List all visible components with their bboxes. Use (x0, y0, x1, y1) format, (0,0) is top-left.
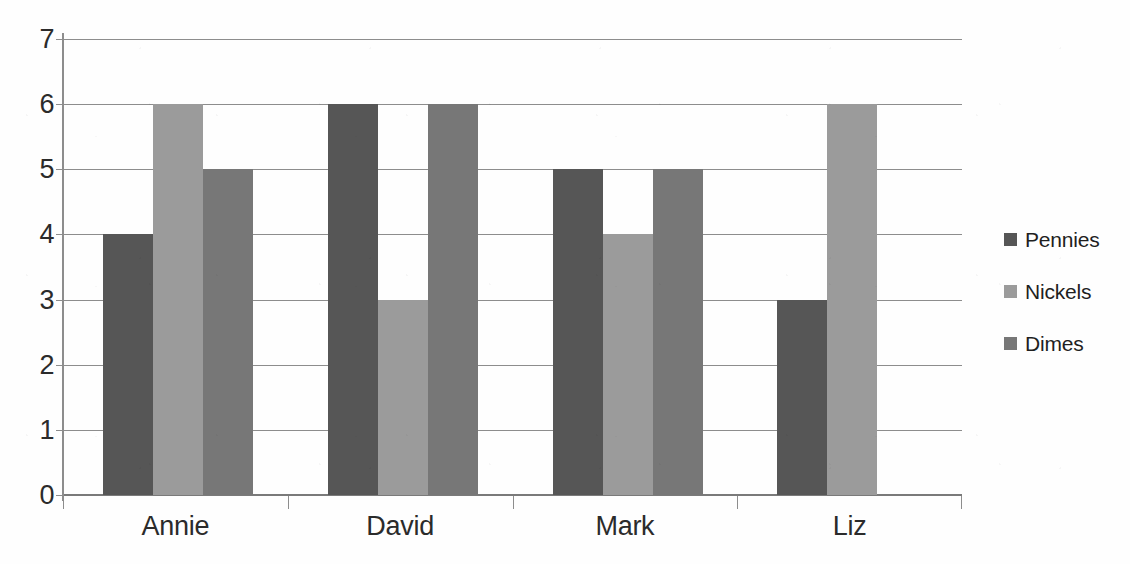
bar-annie-nickels (153, 104, 203, 495)
value-axis-tick-6 (56, 104, 64, 105)
bar-annie-pennies (103, 234, 153, 495)
category-tick-0 (63, 496, 64, 509)
y-tick-label-2: 2 (18, 351, 54, 378)
legend-item-dimes[interactable]: Dimes (1004, 330, 1084, 356)
bar-david-nickels (378, 300, 428, 495)
bar-mark-nickels (603, 234, 653, 495)
bar-group-liz (737, 39, 962, 495)
category-label-mark: Mark (513, 512, 738, 542)
category-tick-2 (513, 496, 514, 509)
bar-david-pennies (328, 104, 378, 495)
bar-mark-pennies (553, 169, 603, 495)
y-tick-label-6: 6 (18, 91, 54, 118)
bar-groups (63, 39, 962, 495)
category-tick-4 (961, 496, 962, 509)
bar-group-mark (513, 39, 738, 495)
value-axis-tick-0 (56, 495, 64, 496)
value-axis-tick-2 (56, 365, 64, 366)
bar-chart-figure: 76543210 AnnieDavidMarkLiz PenniesNickel… (0, 0, 1130, 564)
category-axis-ticks (63, 495, 962, 509)
category-axis-labels: AnnieDavidMarkLiz (63, 512, 962, 552)
chart-legend: PenniesNickelsDimes (1004, 226, 1128, 356)
y-tick-label-3: 3 (18, 286, 54, 313)
y-tick-label-7: 7 (18, 26, 54, 53)
legend-label-pennies: Pennies (1025, 229, 1100, 250)
legend-swatch-nickels (1004, 285, 1017, 298)
bar-group-david (288, 39, 513, 495)
legend-swatch-pennies (1004, 233, 1017, 246)
category-tick-1 (288, 496, 289, 509)
bar-david-dimes (428, 104, 478, 495)
cut-off-title (0, 0, 1130, 14)
category-label-david: David (288, 512, 513, 542)
bar-mark-dimes (653, 169, 703, 495)
y-tick-label-1: 1 (18, 416, 54, 443)
y-tick-label-5: 5 (18, 156, 54, 183)
legend-swatch-dimes (1004, 337, 1017, 350)
plot-area (63, 39, 962, 495)
bar-liz-nickels (827, 104, 877, 495)
legend-label-dimes: Dimes (1025, 333, 1084, 354)
bar-group-annie (63, 39, 288, 495)
value-axis-tick-5 (56, 169, 64, 170)
category-label-liz: Liz (737, 512, 962, 542)
category-label-annie: Annie (63, 512, 288, 542)
legend-item-pennies[interactable]: Pennies (1004, 226, 1100, 252)
y-tick-label-0: 0 (18, 482, 54, 509)
value-axis-tick-1 (56, 430, 64, 431)
legend-label-nickels: Nickels (1025, 281, 1091, 302)
value-axis-tick-4 (56, 234, 64, 235)
category-tick-3 (737, 496, 738, 509)
value-axis-tick-3 (56, 300, 64, 301)
y-tick-label-4: 4 (18, 221, 54, 248)
y-axis: 76543210 (18, 39, 54, 495)
bar-annie-dimes (203, 169, 253, 495)
value-axis-tick-7 (56, 39, 64, 40)
legend-item-nickels[interactable]: Nickels (1004, 278, 1091, 304)
bar-liz-pennies (777, 300, 827, 495)
